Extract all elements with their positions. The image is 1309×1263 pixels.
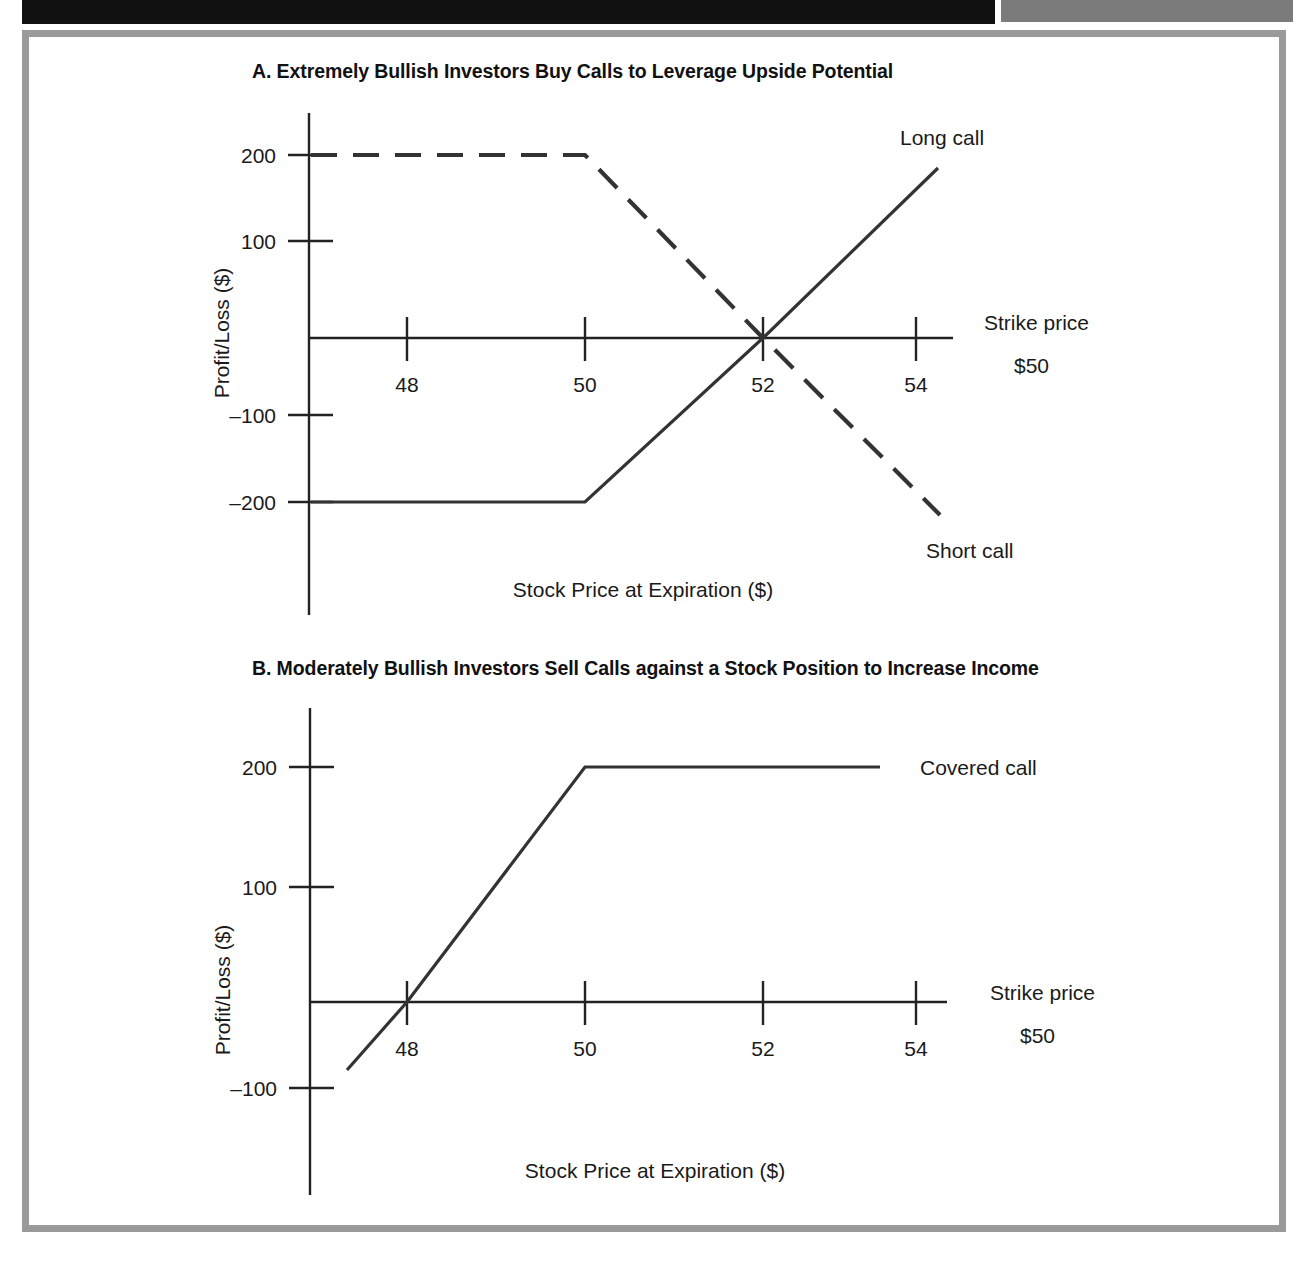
chart-a-strike-price-caption: Strike price [984, 311, 1089, 334]
chart-b-strike-price-caption: Strike price [990, 981, 1095, 1004]
chart-b-xlabel-50: 50 [573, 1037, 596, 1060]
chart-b-xlabel-52: 52 [751, 1037, 774, 1060]
chart-a-series-label-long-call: Long call [900, 126, 984, 149]
chart-a-x-axis-title: Stock Price at Expiration ($) [513, 578, 773, 601]
chart-a-ylabel-neg200: –200 [229, 491, 276, 514]
chart-a-xlabel-54: 54 [904, 373, 928, 396]
chart-a-xlabel-50: 50 [573, 373, 596, 396]
chart-a-xlabel-48: 48 [395, 373, 418, 396]
panel-a-title: A. Extremely Bullish Investors Buy Calls… [252, 60, 893, 83]
scan-artifact-bars [0, 0, 1309, 26]
chart-b-ylabel-100: 100 [242, 876, 277, 899]
chart-b-strike-price-value: $50 [1020, 1024, 1055, 1047]
chart-a-y-axis-title: Profit/Loss ($) [210, 268, 233, 399]
chart-b-xlabel-48: 48 [395, 1037, 418, 1060]
chart-a-ylabel-neg100: –100 [229, 404, 276, 427]
chart-a-series-short-call [311, 155, 940, 515]
chart-b-series-covered-call [347, 767, 880, 1070]
chart-b-x-axis-title: Stock Price at Expiration ($) [525, 1159, 785, 1182]
chart-a-series-long-call [311, 168, 938, 502]
chart-b-y-axis-title: Profit/Loss ($) [211, 925, 234, 1056]
chart-b-ylabel-200: 200 [242, 756, 277, 779]
chart-b-ylabel-neg100: –100 [230, 1077, 277, 1100]
chart-a-ylabel-200: 200 [241, 144, 276, 167]
chart-b-series-label-covered-call: Covered call [920, 756, 1037, 779]
chart-b: 200 100 –100 48 50 52 54 Covered call St… [0, 690, 1309, 1220]
chart-a-strike-price-value: $50 [1014, 354, 1049, 377]
scan-bar-gray [1001, 0, 1293, 22]
panel-b-title: B. Moderately Bullish Investors Sell Cal… [252, 657, 1039, 680]
chart-a-xlabel-52: 52 [751, 373, 774, 396]
chart-b-xlabel-54: 54 [904, 1037, 928, 1060]
scan-bar-dark [22, 0, 995, 24]
chart-a: 200 100 –100 –200 48 50 52 54 Long call … [0, 95, 1309, 635]
chart-a-series-label-short-call: Short call [926, 539, 1014, 562]
chart-a-ylabel-100: 100 [241, 230, 276, 253]
